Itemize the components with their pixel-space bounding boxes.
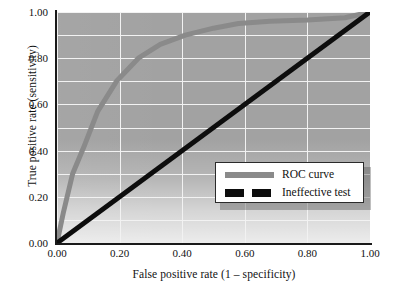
legend-label-ineffective-test: Ineffective test [282, 187, 350, 199]
legend-label-roc-curve: ROC curve [282, 169, 334, 181]
x-tick-label: 0.80 [298, 247, 317, 259]
x-tick-label: 0.00 [47, 247, 66, 259]
legend-item-ineffective-test: Ineffective test [216, 183, 363, 202]
legend-item-roc-curve: ROC curve [216, 165, 363, 184]
x-axis-tick-labels: 0.000.200.400.600.801.00 [0, 0, 394, 289]
x-tick-label: 0.40 [173, 247, 192, 259]
legend-line-dash-segment [225, 189, 244, 197]
x-axis-title: False positive rate (1 – specificity) [57, 268, 371, 280]
x-tick-label: 0.20 [110, 247, 129, 259]
x-tick-label: 0.60 [235, 247, 254, 259]
legend-swatch-roc-curve [225, 166, 274, 184]
legend-line-solid [225, 172, 274, 178]
roc-chart-figure: True positive rate (sensitivity) 0.000.2… [0, 0, 394, 289]
legend-line-dash-segment [252, 189, 271, 197]
legend-swatch-ineffective-test [225, 184, 274, 202]
x-tick-label: 1.00 [360, 247, 379, 259]
chart-legend: ROC curve Ineffective test [215, 162, 364, 203]
